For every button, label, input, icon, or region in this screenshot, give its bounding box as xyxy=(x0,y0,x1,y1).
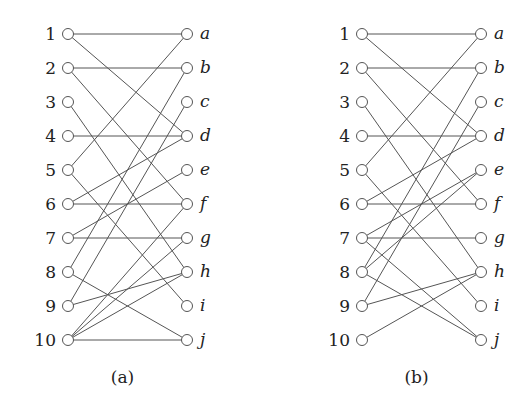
bipartite-diagrams: 12345678910abcdefghij(a)12345678910abcde… xyxy=(0,0,528,415)
left-node-6 xyxy=(63,199,74,210)
right-node-c xyxy=(182,97,193,108)
right-node-a xyxy=(476,29,487,40)
left-node-label: 2 xyxy=(45,58,56,78)
left-node-label: 3 xyxy=(45,92,56,112)
edge-8-b xyxy=(362,68,481,272)
left-node-2 xyxy=(357,63,368,74)
left-node-label: 5 xyxy=(339,160,350,180)
left-node-label: 1 xyxy=(45,24,56,44)
left-node-1 xyxy=(357,29,368,40)
right-node-h xyxy=(182,267,193,278)
edge-10-f xyxy=(68,204,187,340)
left-node-9 xyxy=(357,301,368,312)
right-node-label: b xyxy=(494,57,505,77)
edge-8-e xyxy=(362,170,481,272)
edge-3-h xyxy=(362,102,481,272)
right-node-label: f xyxy=(198,193,209,213)
left-node-label: 6 xyxy=(45,194,56,214)
edge-9-h xyxy=(362,272,481,306)
right-node-j xyxy=(182,335,193,346)
left-node-label: 9 xyxy=(339,296,350,316)
edge-8-b xyxy=(68,68,187,272)
left-node-10 xyxy=(63,335,74,346)
right-node-d xyxy=(182,131,193,142)
right-node-e xyxy=(476,165,487,176)
left-node-label: 4 xyxy=(339,126,350,146)
edge-1-d xyxy=(362,34,481,136)
right-node-label: d xyxy=(200,125,211,145)
edge-1-d xyxy=(68,34,187,136)
right-node-d xyxy=(476,131,487,142)
left-node-3 xyxy=(357,97,368,108)
right-node-e xyxy=(182,165,193,176)
right-node-c xyxy=(476,97,487,108)
right-node-label: c xyxy=(494,91,504,111)
right-node-label: a xyxy=(494,23,504,43)
right-node-g xyxy=(182,233,193,244)
right-node-label: e xyxy=(494,159,504,179)
left-node-4 xyxy=(63,131,74,142)
edge-3-h xyxy=(68,102,187,272)
figure-caption: (b) xyxy=(404,367,428,387)
left-node-label: 6 xyxy=(339,194,350,214)
right-node-label: g xyxy=(200,227,211,247)
right-node-label: b xyxy=(200,57,211,77)
figure-caption: (a) xyxy=(111,367,134,387)
right-node-f xyxy=(182,199,193,210)
left-node-2 xyxy=(63,63,74,74)
edge-5-a xyxy=(68,34,187,170)
right-node-label: j xyxy=(490,329,500,349)
left-node-label: 9 xyxy=(45,296,56,316)
right-node-label: h xyxy=(494,261,505,281)
right-node-i xyxy=(476,301,487,312)
right-node-b xyxy=(182,63,193,74)
left-node-3 xyxy=(63,97,74,108)
right-node-label: g xyxy=(494,227,505,247)
right-node-label: f xyxy=(492,193,503,213)
left-node-10 xyxy=(357,335,368,346)
left-node-label: 10 xyxy=(34,330,56,350)
right-node-g xyxy=(476,233,487,244)
left-node-6 xyxy=(357,199,368,210)
right-node-label: a xyxy=(200,23,210,43)
right-node-label: i xyxy=(494,295,499,315)
left-node-label: 10 xyxy=(328,330,350,350)
right-node-label: h xyxy=(200,261,211,281)
left-node-7 xyxy=(63,233,74,244)
right-node-label: e xyxy=(200,159,210,179)
left-node-8 xyxy=(63,267,74,278)
left-node-label: 1 xyxy=(339,24,350,44)
left-node-label: 8 xyxy=(339,262,350,282)
left-node-9 xyxy=(63,301,74,312)
left-node-5 xyxy=(357,165,368,176)
graph-b: 12345678910abcdefghij(b) xyxy=(328,23,505,387)
right-node-h xyxy=(476,267,487,278)
left-node-label: 7 xyxy=(45,228,56,248)
right-node-j xyxy=(476,335,487,346)
edge-10-g xyxy=(68,238,187,340)
left-node-4 xyxy=(357,131,368,142)
right-node-label: c xyxy=(200,91,210,111)
left-node-label: 5 xyxy=(45,160,56,180)
left-node-label: 8 xyxy=(45,262,56,282)
left-node-7 xyxy=(357,233,368,244)
right-node-f xyxy=(476,199,487,210)
right-node-label: j xyxy=(196,329,206,349)
left-node-8 xyxy=(357,267,368,278)
left-node-label: 2 xyxy=(339,58,350,78)
left-node-1 xyxy=(63,29,74,40)
left-node-label: 7 xyxy=(339,228,350,248)
graph-a: 12345678910abcdefghij(a) xyxy=(34,23,211,387)
left-node-label: 3 xyxy=(339,92,350,112)
right-node-b xyxy=(476,63,487,74)
right-node-label: d xyxy=(494,125,505,145)
right-node-label: i xyxy=(200,295,205,315)
right-node-i xyxy=(182,301,193,312)
left-node-label: 4 xyxy=(45,126,56,146)
edge-5-a xyxy=(362,34,481,170)
left-node-5 xyxy=(63,165,74,176)
right-node-a xyxy=(182,29,193,40)
